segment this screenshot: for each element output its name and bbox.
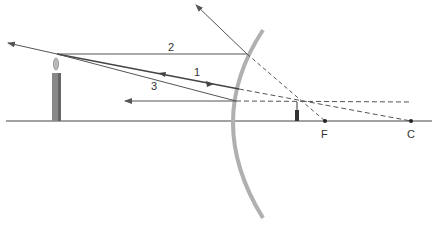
ray-3-incident — [57, 54, 236, 101]
virtual-image — [295, 102, 299, 121]
convex-mirror — [233, 30, 263, 218]
ray-1-extension — [239, 89, 411, 121]
center-of-curvature-label: C — [407, 128, 415, 140]
ray-diagram: 2 1 3 F C — [0, 0, 437, 227]
ray-label-2: 2 — [168, 41, 174, 53]
ray-2-extension — [247, 54, 325, 121]
ray-3-extension — [236, 101, 410, 102]
focal-point-label: F — [321, 128, 328, 140]
ray-label-1: 1 — [194, 66, 200, 78]
ray-label-3: 3 — [151, 80, 157, 92]
candle-object — [52, 58, 61, 121]
center-point-dot — [409, 119, 413, 123]
ray-1-arrow-in — [206, 81, 214, 87]
ray-1-arrow-out — [158, 72, 166, 77]
ray-2-reflected — [196, 5, 247, 54]
ray-1-reflected-out — [8, 43, 57, 54]
focal-point-dot — [323, 119, 327, 123]
